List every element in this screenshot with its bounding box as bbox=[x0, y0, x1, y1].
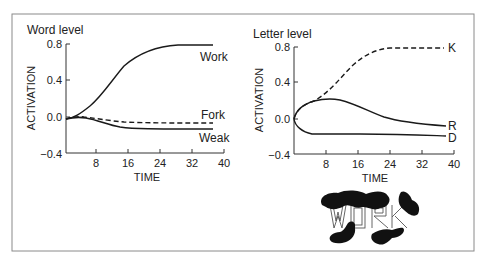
k-line bbox=[294, 48, 444, 119]
word-xtick-32: 32 bbox=[186, 157, 198, 169]
work-label: Work bbox=[200, 50, 229, 64]
figure-svg: Word level 0.8 0.4 0.0 −0.4 8 16 24 32 4… bbox=[0, 0, 486, 268]
occluded-word-stimulus bbox=[321, 190, 419, 244]
ink-blot-bottom-right bbox=[371, 228, 404, 245]
letter-ytick-0.0: 0.0 bbox=[275, 113, 290, 125]
letter-y-ticks bbox=[294, 47, 298, 119]
letter-xtick-16: 16 bbox=[352, 158, 364, 170]
letter-xtick-8: 8 bbox=[323, 158, 329, 170]
word-xtick-40: 40 bbox=[218, 157, 230, 169]
word-ylabel: ACTIVATION bbox=[25, 66, 37, 130]
ink-blot-right bbox=[399, 191, 420, 215]
word-xlabel: TIME bbox=[134, 171, 160, 183]
fork-line bbox=[66, 117, 213, 123]
ink-blots bbox=[321, 190, 419, 244]
word-xtick-24: 24 bbox=[154, 157, 166, 169]
letter-ylabel: ACTIVATION bbox=[253, 68, 265, 132]
d-label: D bbox=[448, 131, 457, 145]
letter-ytick-0.8: 0.8 bbox=[275, 41, 290, 53]
word-ytick-0.8: 0.8 bbox=[47, 38, 62, 50]
letter-xtick-32: 32 bbox=[416, 158, 428, 170]
weak-label: Weak bbox=[199, 131, 230, 145]
letter-ytick-0.4: 0.4 bbox=[275, 76, 290, 88]
letter-ytick-neg0.4: −0.4 bbox=[268, 149, 290, 161]
letter-x-ticks bbox=[326, 150, 454, 154]
letter-level-chart: Letter level 0.8 0.4 0.0 −0.4 8 16 24 32… bbox=[253, 27, 460, 184]
fork-label: Fork bbox=[201, 108, 226, 122]
word-level-title: Word level bbox=[27, 23, 83, 37]
d-line bbox=[294, 119, 446, 136]
k-label: K bbox=[448, 41, 456, 55]
stimulus-letters bbox=[330, 205, 407, 228]
word-ytick-neg0.4: −0.4 bbox=[40, 148, 62, 160]
word-xtick-16: 16 bbox=[122, 157, 134, 169]
word-level-chart: Word level 0.8 0.4 0.0 −0.4 8 16 24 32 4… bbox=[25, 23, 230, 183]
letter-xlabel: TIME bbox=[362, 172, 388, 184]
letter-level-title: Letter level bbox=[253, 27, 312, 41]
work-line bbox=[66, 45, 213, 119]
word-y-ticks bbox=[66, 44, 70, 117]
word-ytick-0.0: 0.0 bbox=[47, 111, 62, 123]
word-ytick-0.4: 0.4 bbox=[47, 74, 62, 86]
letter-xtick-40: 40 bbox=[448, 158, 460, 170]
letter-o-inner bbox=[354, 208, 362, 225]
figure-root: Word level 0.8 0.4 0.0 −0.4 8 16 24 32 4… bbox=[0, 0, 486, 268]
ink-blot-top bbox=[321, 190, 389, 209]
figure-frame bbox=[12, 14, 474, 251]
r-line bbox=[294, 99, 446, 126]
word-xtick-8: 8 bbox=[93, 157, 99, 169]
word-x-ticks bbox=[96, 149, 224, 153]
letter-xtick-24: 24 bbox=[384, 158, 396, 170]
